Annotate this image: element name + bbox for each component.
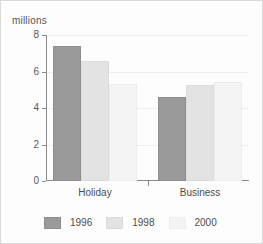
y-axis-tick-mark <box>42 145 46 146</box>
gridline <box>47 35 249 36</box>
y-axis-unit-caption: millions <box>12 15 47 26</box>
legend-item-1998[interactable]: 1998 <box>106 217 154 229</box>
y-axis-tick-mark <box>42 181 46 182</box>
legend-item-1996[interactable]: 1996 <box>44 217 92 229</box>
x-axis-category-label-business: Business <box>180 187 221 198</box>
bar-chart: millions 02468 HolidayBusiness 199619982… <box>0 0 263 244</box>
y-axis-tick-mark <box>42 35 46 36</box>
plot-area: 02468 <box>46 35 249 181</box>
y-axis-tick-label: 4 <box>33 103 39 113</box>
bar-holiday-1998 <box>81 61 109 181</box>
y-axis-tick-mark <box>42 72 46 73</box>
legend-swatch-1998 <box>106 217 123 229</box>
y-axis-tick-label: 2 <box>33 140 39 150</box>
bar-business-2000 <box>214 82 242 181</box>
y-axis-tick-label: 8 <box>33 30 39 40</box>
legend-swatch-1996 <box>44 217 61 229</box>
legend-swatch-2000 <box>169 217 186 229</box>
x-axis-category-label-holiday: Holiday <box>78 187 111 198</box>
legend-label-1998: 1998 <box>132 218 154 228</box>
bar-holiday-2000 <box>109 84 137 181</box>
y-axis-tick-mark <box>42 108 46 109</box>
chart-legend: 199619982000 <box>44 217 231 229</box>
bar-holiday-1996 <box>53 46 81 181</box>
legend-item-2000[interactable]: 2000 <box>169 217 217 229</box>
bar-business-1998 <box>186 85 214 181</box>
bar-business-1996 <box>158 97 186 181</box>
x-axis-group-separator-tick <box>148 181 149 186</box>
legend-label-1996: 1996 <box>70 218 92 228</box>
legend-label-2000: 2000 <box>195 218 217 228</box>
y-axis-tick-label: 6 <box>33 67 39 77</box>
y-axis-tick-label: 0 <box>33 176 39 186</box>
